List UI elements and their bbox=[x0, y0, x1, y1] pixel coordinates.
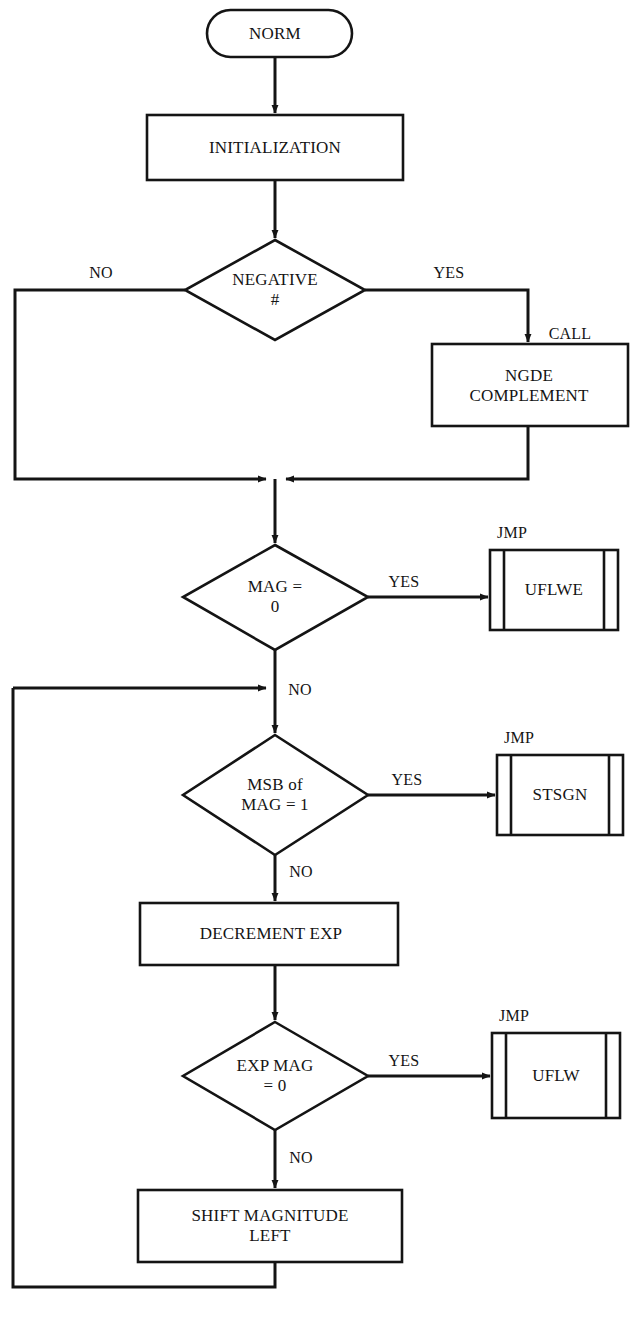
edge-negative-no bbox=[15, 290, 266, 479]
node-label-stsgn: STSGN bbox=[533, 785, 588, 805]
node-label-init: INITIALIZATION bbox=[209, 138, 341, 158]
edge-label-uflw-jmp: JMP bbox=[499, 1007, 529, 1026]
edge-label-mag0-no: NO bbox=[288, 681, 312, 700]
node-label-ngde: NGDE COMPLEMENT bbox=[469, 366, 588, 405]
edge-label-negative-no: NO bbox=[89, 264, 113, 283]
node-label-shift: SHIFT MAGNITUDE LEFT bbox=[191, 1206, 348, 1245]
node-label-msb: MSB of MAG = 1 bbox=[241, 775, 309, 814]
edge-label-expmag0-yes: YES bbox=[389, 1052, 420, 1071]
node-label-decrement: DECREMENT EXP bbox=[200, 924, 343, 944]
edge-label-negative-yes: YES bbox=[434, 264, 465, 283]
node-label-mag0: MAG = 0 bbox=[248, 577, 303, 616]
edge-label-msb-no: NO bbox=[289, 863, 313, 882]
edge-ngde-merge bbox=[286, 426, 528, 479]
flowchart-canvas: NORM INITIALIZATION NEGATIVE # NGDE COMP… bbox=[0, 0, 634, 1337]
node-label-start: NORM bbox=[249, 24, 301, 44]
edge-negative-yes bbox=[365, 290, 528, 342]
node-label-expmag0: EXP MAG = 0 bbox=[237, 1056, 314, 1095]
edge-label-ngde-call: CALL bbox=[549, 325, 592, 344]
edge-label-stsgn-jmp: JMP bbox=[504, 729, 534, 748]
edge-label-uflwe-jmp: JMP bbox=[497, 524, 527, 543]
edge-label-mag0-yes: YES bbox=[389, 573, 420, 592]
node-label-uflw: UFLW bbox=[532, 1066, 580, 1086]
flowchart-graphics bbox=[0, 0, 634, 1337]
node-label-uflwe: UFLWE bbox=[525, 580, 583, 600]
edge-label-msb-yes: YES bbox=[392, 771, 423, 790]
node-label-negative: NEGATIVE # bbox=[232, 270, 318, 309]
edge-label-expmag0-no: NO bbox=[289, 1149, 313, 1168]
